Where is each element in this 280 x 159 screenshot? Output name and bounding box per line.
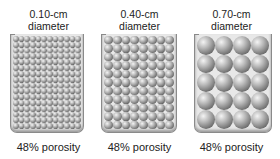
grain-sphere bbox=[139, 53, 148, 61]
grain-sphere bbox=[104, 53, 113, 61]
grain-sphere bbox=[30, 71, 36, 77]
grain-sphere bbox=[215, 110, 233, 129]
grain-sphere bbox=[113, 70, 122, 78]
grain-sphere bbox=[122, 53, 131, 61]
grain-size-caption: 0.40-cm diameter bbox=[93, 8, 186, 32]
grain-sphere bbox=[157, 78, 166, 86]
grain-sphere bbox=[47, 100, 53, 106]
grain-size-caption: 0.10-cm diameter bbox=[2, 8, 95, 32]
grain-sphere bbox=[122, 121, 131, 129]
grain-sphere bbox=[165, 112, 174, 120]
sphere-grid bbox=[104, 36, 174, 129]
grain-sphere bbox=[165, 104, 174, 112]
grain-sphere bbox=[148, 112, 157, 120]
grain-sphere bbox=[113, 53, 122, 61]
grain-sphere bbox=[113, 78, 122, 86]
grain-sphere bbox=[104, 121, 113, 129]
grain-sphere bbox=[130, 70, 139, 78]
grain-sphere bbox=[75, 71, 81, 77]
grain-size-label: 0.70-cm bbox=[185, 8, 278, 20]
grain-sphere bbox=[64, 36, 70, 42]
grain-sphere bbox=[13, 123, 19, 129]
grain-sphere bbox=[148, 78, 157, 86]
grain-sphere bbox=[130, 121, 139, 129]
grain-sphere bbox=[30, 106, 36, 112]
panel-small-grains: 0.10-cm diameter 48% porosity bbox=[2, 0, 95, 159]
grain-sphere bbox=[157, 87, 166, 95]
grain-sphere bbox=[165, 36, 174, 44]
grain-sphere bbox=[47, 42, 53, 48]
panel-large-grains: 0.70-cm diameter 48% porosity bbox=[185, 0, 278, 159]
grain-sphere bbox=[75, 100, 81, 106]
grain-sphere bbox=[148, 95, 157, 103]
grain-sphere bbox=[130, 61, 139, 69]
diameter-label: diameter bbox=[185, 20, 278, 32]
grain-sphere bbox=[251, 55, 269, 74]
grain-sphere bbox=[104, 87, 113, 95]
grain-sphere bbox=[122, 61, 131, 69]
grain-sphere bbox=[122, 36, 131, 44]
grain-sphere bbox=[157, 44, 166, 52]
grain-sphere bbox=[139, 87, 148, 95]
grain-sphere bbox=[251, 110, 269, 129]
grain-sphere bbox=[165, 78, 174, 86]
grain-sphere bbox=[64, 123, 70, 129]
grain-sphere bbox=[13, 100, 19, 106]
grain-sphere bbox=[64, 106, 70, 112]
grain-sphere bbox=[233, 36, 251, 55]
grain-sphere bbox=[197, 36, 215, 55]
grain-sphere bbox=[64, 71, 70, 77]
grain-sphere bbox=[122, 78, 131, 86]
grain-sphere bbox=[75, 77, 81, 83]
grain-sphere bbox=[139, 112, 148, 120]
grain-sphere bbox=[139, 44, 148, 52]
grain-sphere bbox=[104, 104, 113, 112]
grain-sphere bbox=[113, 95, 122, 103]
grain-sphere bbox=[30, 123, 36, 129]
grain-sphere bbox=[30, 100, 36, 106]
grain-sphere bbox=[251, 36, 269, 55]
grain-sphere bbox=[122, 70, 131, 78]
grain-sphere bbox=[197, 55, 215, 74]
grain-sphere bbox=[139, 104, 148, 112]
grain-sphere bbox=[75, 36, 81, 42]
grain-sphere bbox=[64, 100, 70, 106]
grain-sphere bbox=[122, 95, 131, 103]
grain-sphere bbox=[122, 112, 131, 120]
grain-sphere bbox=[122, 87, 131, 95]
grain-sphere bbox=[113, 87, 122, 95]
grain-sphere bbox=[130, 87, 139, 95]
porosity-label: 48% porosity bbox=[93, 141, 186, 153]
diameter-label: diameter bbox=[93, 20, 186, 32]
grain-sphere bbox=[130, 104, 139, 112]
grain-sphere bbox=[13, 77, 19, 83]
grain-sphere bbox=[139, 78, 148, 86]
grain-sphere bbox=[165, 61, 174, 69]
grain-sphere bbox=[157, 53, 166, 61]
grain-sphere bbox=[75, 42, 81, 48]
container-small-grains bbox=[10, 34, 84, 133]
grain-sphere bbox=[148, 121, 157, 129]
grain-sphere bbox=[47, 106, 53, 112]
grain-sphere bbox=[215, 36, 233, 55]
grain-size-caption: 0.70-cm diameter bbox=[185, 8, 278, 32]
grain-sphere bbox=[139, 36, 148, 44]
panel-medium-grains: 0.40-cm diameter 48% porosity bbox=[93, 0, 186, 159]
grain-sphere bbox=[165, 121, 174, 129]
grain-sphere bbox=[30, 36, 36, 42]
grain-sphere bbox=[157, 36, 166, 44]
sphere-grid bbox=[197, 36, 269, 129]
grain-sphere bbox=[148, 70, 157, 78]
grain-sphere bbox=[47, 123, 53, 129]
grain-size-label: 0.10-cm bbox=[2, 8, 95, 20]
grain-sphere bbox=[197, 110, 215, 129]
grain-sphere bbox=[104, 61, 113, 69]
porosity-label: 48% porosity bbox=[2, 141, 95, 153]
grain-sphere bbox=[13, 71, 19, 77]
grain-sphere bbox=[104, 44, 113, 52]
grain-sphere bbox=[157, 121, 166, 129]
grain-sphere bbox=[113, 104, 122, 112]
grain-sphere bbox=[251, 92, 269, 111]
grain-sphere bbox=[13, 106, 19, 112]
grain-sphere bbox=[165, 53, 174, 61]
